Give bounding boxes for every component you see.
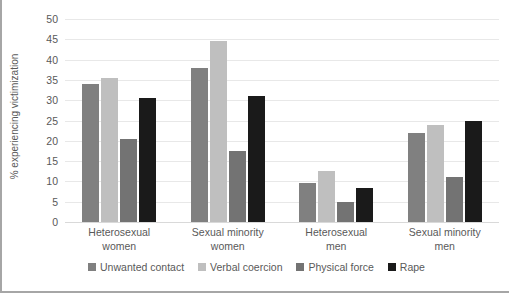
x-axis-label-line: Sexual minority [409,226,481,238]
legend-swatch-icon [388,263,396,271]
y-axis-tick-label: 30 [46,94,58,106]
chart-container: % experiencing victimization 50454035302… [0,0,509,293]
bar [139,98,156,222]
bar-group [282,19,391,222]
bar [120,139,137,222]
plot-area [65,19,499,222]
bar [465,121,482,223]
bar [356,188,373,223]
x-axis-label-line: women [174,239,283,253]
y-axis-tick-label: 0 [52,216,58,228]
y-axis-tick-label: 35 [46,74,58,86]
x-axis-label-line: women [65,239,174,253]
y-axis-title: % experiencing victimization [4,0,26,232]
y-axis-tick-label: 5 [52,196,58,208]
x-axis-label-line: men [391,239,500,253]
y-axis-tick-label: 20 [46,135,58,147]
bar [318,171,335,222]
legend-item[interactable]: Physical force [296,261,373,273]
legend-swatch-icon [88,263,96,271]
x-axis-label-line: men [282,239,391,253]
bar-group [65,19,174,222]
bar-group [391,19,500,222]
x-axis-label-line: Heterosexual [88,226,150,238]
x-axis-label-line: Heterosexual [305,226,367,238]
x-axis-label: Sexual minoritywomen [174,225,283,259]
y-axis-tick-label: 25 [46,115,58,127]
bar [82,84,99,222]
x-axis-label: Heterosexualwomen [65,225,174,259]
legend-label: Physical force [308,261,373,273]
bar [427,125,444,222]
bar [210,41,227,222]
x-axis-label: Sexual minoritymen [391,225,500,259]
x-axis-label-line: Sexual minority [192,226,264,238]
legend-item[interactable]: Rape [388,261,425,273]
bar [446,177,463,222]
bar [299,183,316,222]
legend-item[interactable]: Unwanted contact [88,261,184,273]
legend-item[interactable]: Verbal coercion [198,261,282,273]
x-axis-labels: HeterosexualwomenSexual minoritywomenHet… [65,225,499,259]
bar [337,202,354,222]
bar [248,96,265,222]
bar-group [174,19,283,222]
bar [101,78,118,222]
bar [229,151,246,222]
y-axis-tick-label: 50 [46,13,58,25]
gridline [65,222,499,223]
x-axis-label: Heterosexualmen [282,225,391,259]
bar [408,133,425,222]
y-axis-tick-label: 10 [46,175,58,187]
bar [191,68,208,222]
y-axis-tick-label: 15 [46,155,58,167]
y-axis-tick-labels: 50454035302520151050 [28,19,62,222]
y-axis-tick-label: 45 [46,33,58,45]
legend-swatch-icon [198,263,206,271]
y-axis-title-text: % experiencing victimization [10,53,21,179]
chart-legend: Unwanted contactVerbal coercionPhysical … [2,261,509,273]
legend-swatch-icon [296,263,304,271]
y-axis-tick-label: 40 [46,54,58,66]
legend-label: Rape [400,261,425,273]
legend-label: Verbal coercion [210,261,282,273]
legend-label: Unwanted contact [100,261,184,273]
bar-groups [65,19,499,222]
